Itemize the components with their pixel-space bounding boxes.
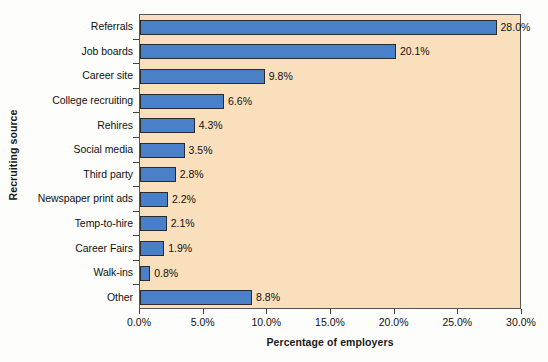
category-label: Third party [26,168,133,180]
y-axis-title-text: Recruiting source [7,110,19,201]
x-axis-tick [266,309,267,314]
x-axis-tick [457,309,458,314]
x-axis-tick-label: 25.0% [442,316,472,328]
bar-value-label: 1.9% [164,241,192,256]
bar-value-label: 3.5% [185,143,213,158]
y-axis-tick [133,137,139,138]
x-axis-tick-label: 0.0% [127,316,151,328]
bar [140,241,164,256]
category-label: Walk-ins [26,266,133,278]
bar-value-label: 2.8% [176,167,204,182]
bar-chart: Recruiting source ReferralsJob boardsCar… [0,0,548,362]
category-label: Referrals [26,20,133,32]
category-label: Social media [26,143,133,155]
x-axis-tick [203,309,204,314]
category-label: Career site [26,69,133,81]
bar-row: 4.3% [140,118,522,133]
bar-row: 28.0% [140,20,522,35]
category-label: Newspaper print ads [26,192,133,204]
category-label-list: ReferralsJob boardsCareer siteCollege re… [26,14,133,309]
bar-row: 1.9% [140,241,522,256]
x-axis-title: Percentage of employers [139,336,521,348]
bar [140,192,168,207]
bar-value-label: 2.2% [168,192,196,207]
bar-value-label: 6.6% [224,94,252,109]
y-axis-tick [133,63,139,64]
x-axis-tick [521,309,522,314]
y-axis-tick [133,284,139,285]
x-axis-tick-label: 15.0% [315,316,345,328]
bar [140,94,224,109]
bar-value-label: 20.1% [396,44,430,59]
bar-row: 0.8% [140,266,522,281]
y-axis-tick [133,88,139,89]
category-label: Other [26,291,133,303]
bar-value-label: 4.3% [195,118,223,133]
y-axis-tick [133,162,139,163]
bar-row: 6.6% [140,94,522,109]
x-axis-tick [139,309,140,314]
bar [140,20,497,35]
category-label: Career Fairs [26,242,133,254]
x-axis-tick-label: 5.0% [191,316,215,328]
bar-row: 20.1% [140,44,522,59]
bar-value-label: 0.8% [150,266,178,281]
bar [140,167,176,182]
bar [140,118,195,133]
y-axis-tick [133,39,139,40]
bar-value-label: 2.1% [167,216,195,231]
x-axis-tick [330,309,331,314]
bar [140,69,265,84]
bar-value-label: 9.8% [265,69,293,84]
x-axis-tick [394,309,395,314]
category-label: Job boards [26,45,133,57]
y-axis-tick [133,186,139,187]
bar-row: 8.8% [140,290,522,305]
category-label: Temp-to-hire [26,217,133,229]
bar [140,44,396,59]
y-axis-tick [133,112,139,113]
bar [140,216,167,231]
bar-row: 2.1% [140,216,522,231]
category-label: College recruiting [26,94,133,106]
y-axis-tick [133,211,139,212]
x-axis-tick-label: 10.0% [251,316,281,328]
y-axis-title: Recruiting source [0,0,26,310]
bar [140,266,150,281]
bar-row: 2.2% [140,192,522,207]
bar-row: 9.8% [140,69,522,84]
x-axis-tick-label: 30.0% [506,316,536,328]
x-axis-tick-label: 20.0% [379,316,409,328]
y-axis-tick [133,260,139,261]
bar-value-label: 28.0% [497,20,531,35]
bar [140,290,252,305]
category-label: Rehires [26,119,133,131]
plot-area: 28.0%20.1%9.8%6.6%4.3%3.5%2.8%2.2%2.1%1.… [139,14,521,309]
y-axis-tick [133,235,139,236]
bar-row: 3.5% [140,143,522,158]
bar-row: 2.8% [140,167,522,182]
bar-value-label: 8.8% [252,290,280,305]
bar [140,143,185,158]
